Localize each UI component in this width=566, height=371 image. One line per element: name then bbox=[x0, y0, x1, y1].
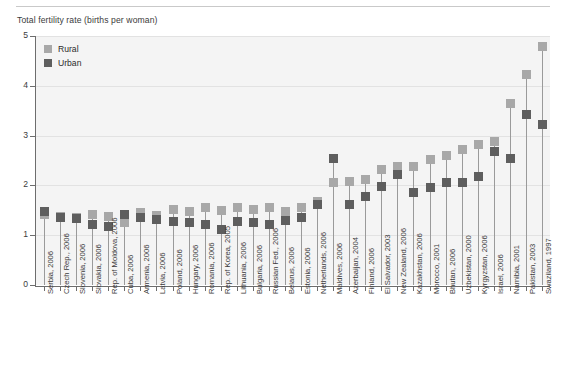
y-tick-label: 1 bbox=[0, 230, 28, 240]
data-point-urban bbox=[152, 215, 161, 224]
x-axis-category-label: Estonia, 2006 bbox=[304, 248, 312, 294]
y-tick-label-text: 2 bbox=[2, 180, 28, 189]
data-point-urban bbox=[393, 170, 402, 179]
data-point-rural bbox=[169, 205, 178, 214]
x-axis-category-label: Morocco, 2001 bbox=[433, 244, 441, 294]
x-tick-mark bbox=[140, 287, 141, 291]
x-axis-category-label: Latvia, 2006 bbox=[159, 253, 167, 294]
x-tick-mark bbox=[173, 287, 174, 291]
data-point-urban bbox=[40, 207, 49, 216]
chart-legend: Rural Urban bbox=[44, 43, 81, 71]
x-axis-category-label: El Salvador, 2003 bbox=[384, 234, 392, 294]
data-stem bbox=[542, 47, 543, 285]
x-tick-mark bbox=[156, 287, 157, 291]
data-point-urban bbox=[297, 213, 306, 222]
x-tick-mark bbox=[510, 287, 511, 291]
data-stem bbox=[446, 156, 447, 285]
legend-swatch-urban-icon bbox=[44, 59, 52, 67]
data-point-urban bbox=[313, 200, 322, 209]
data-point-urban bbox=[426, 183, 435, 192]
x-tick-mark bbox=[60, 287, 61, 291]
x-axis-category-label: Bhutan, 2006 bbox=[449, 249, 457, 294]
x-tick-mark bbox=[542, 287, 543, 291]
data-point-rural bbox=[297, 203, 306, 212]
x-tick-mark bbox=[108, 287, 109, 291]
data-point-rural bbox=[442, 151, 451, 160]
legend-item-urban: Urban bbox=[44, 57, 81, 69]
y-tick-mark bbox=[30, 285, 35, 286]
x-axis-category-label: Swaziland, 1997 bbox=[545, 238, 553, 294]
data-point-urban bbox=[538, 120, 547, 129]
x-tick-mark bbox=[301, 287, 302, 291]
y-tick-label-text: 4 bbox=[2, 81, 28, 90]
data-point-rural bbox=[474, 140, 483, 149]
y-tick-label: 0 bbox=[0, 280, 28, 290]
data-point-urban bbox=[233, 217, 242, 226]
data-point-urban bbox=[442, 178, 451, 187]
data-stem bbox=[397, 166, 398, 285]
y-tick-mark bbox=[30, 36, 35, 37]
data-point-rural bbox=[281, 207, 290, 216]
data-point-urban bbox=[72, 214, 81, 223]
x-tick-mark bbox=[285, 287, 286, 291]
x-axis-category-label: Kyrgyzstan, 2006 bbox=[481, 235, 489, 294]
data-point-rural bbox=[329, 178, 338, 187]
data-point-rural bbox=[345, 177, 354, 186]
data-point-urban bbox=[88, 220, 97, 229]
data-point-urban bbox=[506, 154, 515, 163]
data-stem bbox=[478, 145, 479, 285]
data-stem bbox=[413, 166, 414, 285]
data-point-rural bbox=[377, 165, 386, 174]
x-tick-mark bbox=[333, 287, 334, 291]
data-point-urban bbox=[345, 200, 354, 209]
data-point-rural bbox=[233, 203, 242, 212]
data-stem bbox=[44, 211, 45, 285]
data-point-urban bbox=[329, 154, 338, 163]
data-point-rural bbox=[538, 42, 547, 51]
y-axis-line bbox=[35, 36, 36, 286]
data-stem bbox=[494, 142, 495, 285]
x-tick-mark bbox=[237, 287, 238, 291]
x-tick-mark bbox=[221, 287, 222, 291]
x-axis-category-label: Poland, 2006 bbox=[176, 249, 184, 294]
data-point-urban bbox=[361, 192, 370, 201]
data-point-urban bbox=[409, 188, 418, 197]
x-axis-category-label: Cuba, 2006 bbox=[127, 255, 135, 294]
data-point-urban bbox=[56, 213, 65, 222]
gridline bbox=[36, 36, 550, 37]
x-tick-mark bbox=[397, 287, 398, 291]
data-stem bbox=[140, 213, 141, 285]
x-axis-category-label: Pakistan, 2003 bbox=[529, 244, 537, 294]
y-tick-label-text: 3 bbox=[2, 131, 28, 140]
data-point-rural bbox=[88, 210, 97, 219]
x-tick-mark bbox=[189, 287, 190, 291]
data-point-urban bbox=[201, 220, 210, 229]
x-axis-category-label: Azerbaijan, 2004 bbox=[352, 237, 360, 294]
x-axis-category-label: Rep. of Moldova, 2006 bbox=[111, 218, 119, 294]
data-point-rural bbox=[490, 137, 499, 146]
data-stem bbox=[76, 218, 77, 285]
chart-container: 012345 Serbia, 2006Czech Rep., 2006Slove… bbox=[0, 0, 566, 371]
gridline bbox=[36, 185, 550, 186]
data-point-urban bbox=[458, 178, 467, 187]
x-tick-mark bbox=[44, 287, 45, 291]
y-tick-label: 5 bbox=[0, 31, 28, 41]
data-point-urban bbox=[490, 147, 499, 156]
data-stem bbox=[526, 75, 527, 285]
x-axis-category-label: Netherlands, 2006 bbox=[320, 232, 328, 294]
x-axis-category-label: Namibia, 2001 bbox=[513, 245, 521, 294]
y-tick-label: 2 bbox=[0, 180, 28, 190]
x-tick-mark bbox=[253, 287, 254, 291]
data-stem bbox=[156, 215, 157, 285]
data-stem bbox=[221, 210, 222, 285]
x-axis-category-label: Romania, 2006 bbox=[208, 242, 216, 294]
x-tick-mark bbox=[462, 287, 463, 291]
x-axis-category-label: New Zealand, 2006 bbox=[400, 228, 408, 294]
x-axis-category-label: Kazakhstan, 2006 bbox=[416, 233, 424, 294]
data-point-urban bbox=[185, 218, 194, 227]
gridline bbox=[36, 136, 550, 137]
data-point-rural bbox=[249, 205, 258, 214]
x-axis-category-label: Belarus, 2006 bbox=[288, 247, 296, 294]
x-axis-category-label: Slovenia, 2006 bbox=[79, 244, 87, 294]
data-point-urban bbox=[474, 172, 483, 181]
